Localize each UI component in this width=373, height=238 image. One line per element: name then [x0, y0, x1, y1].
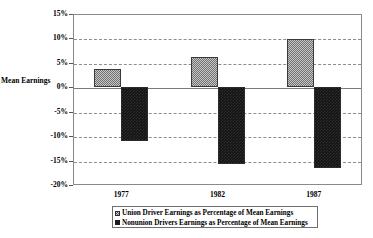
x-axis-tick-labels: 197719821987	[73, 190, 362, 202]
x-axis-tick-label: 1987	[294, 190, 334, 199]
y-axis-tick-label: -5%	[38, 108, 68, 116]
y-axis-tick-label: -10%	[38, 132, 68, 140]
legend-swatch-nonunion-icon	[115, 220, 120, 225]
y-axis-tick-label: -15%	[38, 157, 68, 165]
bar-nonunion-1987	[314, 87, 341, 168]
legend-label-nonunion: Nonunion Drivers Earnings as Percentage …	[122, 219, 308, 227]
y-axis-tick-label: 15%	[38, 10, 68, 18]
y-axis-tick-mark	[69, 185, 73, 186]
x-axis-tick-label: 1977	[101, 190, 141, 199]
y-axis-tick-label: 0%	[38, 83, 68, 91]
legend-label-union: Union Driver Earnings as Percentage of M…	[122, 209, 293, 217]
bar-nonunion-1982	[218, 87, 245, 164]
x-axis-tick-label: 1982	[198, 190, 238, 199]
bar-nonunion-1977	[121, 87, 148, 140]
bars-layer	[73, 14, 362, 185]
chart-legend: Union Driver Earnings as Percentage of M…	[112, 206, 318, 228]
bar-union-1987	[287, 39, 314, 87]
legend-swatch-union-icon	[115, 211, 120, 216]
bar-union-1982	[191, 57, 218, 88]
legend-item-union: Union Driver Earnings as Percentage of M…	[115, 209, 315, 218]
bar-chart: Mean Earnings 15%10%5%0%-5%-10%-15%-20% …	[0, 0, 373, 238]
y-axis-tick-label: 5%	[38, 59, 68, 67]
y-axis-tick-label: -20%	[38, 181, 68, 189]
y-axis-tick-labels: 15%10%5%0%-5%-10%-15%-20%	[38, 14, 68, 185]
bar-union-1977	[94, 69, 121, 88]
y-axis-tick-label: 10%	[38, 34, 68, 42]
legend-item-nonunion: Nonunion Drivers Earnings as Percentage …	[115, 218, 315, 227]
